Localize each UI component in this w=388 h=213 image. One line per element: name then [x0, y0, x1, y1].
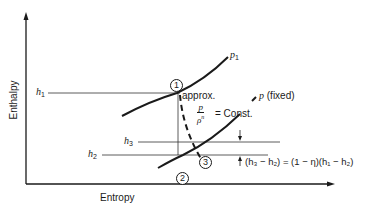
x-axis-label: Entropy — [100, 193, 134, 203]
polytropic-fraction: p ρn — [197, 103, 204, 125]
p1-label: p1 — [230, 50, 239, 61]
approx-label: approx. — [182, 91, 215, 101]
efficiency-formula: (h₃ − h₂) = (1 − η)(h₁ − h₂) — [245, 157, 353, 167]
state-2-marker: 2 — [176, 172, 189, 185]
diagram-canvas — [0, 0, 388, 213]
h1-label: h1 — [36, 87, 45, 98]
const-label: = Const. — [215, 109, 253, 119]
h2-label: h2 — [88, 149, 97, 160]
p-fixed-label: p (fixed) — [259, 91, 295, 101]
y-axis-label: Enthalpy — [8, 81, 19, 120]
curve-p-fixed-tail — [252, 97, 256, 101]
h3-label: h3 — [124, 136, 133, 147]
fraction-numerator: p — [197, 103, 204, 113]
arrow-down-icon — [238, 136, 242, 141]
state-3-marker: 3 — [199, 156, 212, 169]
fraction-denominator: ρn — [197, 113, 204, 125]
x-axis-arrow-icon — [327, 182, 335, 187]
y-axis-arrow-icon — [24, 12, 29, 20]
arrow-up-icon — [238, 156, 242, 161]
